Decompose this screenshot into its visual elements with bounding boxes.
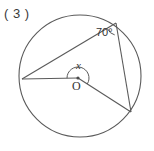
chord-topright-to-bottomright	[116, 23, 131, 112]
circle-diagram	[0, 0, 154, 151]
figure-canvas: ( 3 ) 70° x O	[0, 0, 154, 151]
inscribed-angle-label: 70°	[96, 26, 113, 38]
unknown-angle-label: x	[76, 59, 81, 71]
center-label: O	[72, 79, 81, 94]
radius-center-to-left	[22, 78, 78, 79]
radius-center-to-bottomright	[78, 78, 131, 112]
circle-outline	[19, 15, 141, 137]
